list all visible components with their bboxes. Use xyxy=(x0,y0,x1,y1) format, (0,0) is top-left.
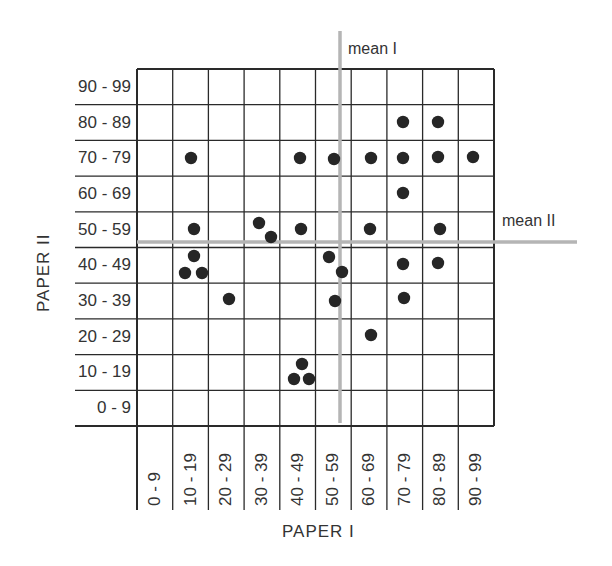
data-point xyxy=(294,152,306,164)
data-point xyxy=(179,267,191,279)
x-tick-label: 60 - 69 xyxy=(359,453,379,506)
data-point xyxy=(296,358,308,370)
x-tick-label: 10 - 19 xyxy=(181,453,201,506)
data-point xyxy=(397,152,409,164)
y-tick-label: 60 - 69 xyxy=(31,184,131,204)
data-point xyxy=(398,292,410,304)
y-axis-title: PAPER II xyxy=(34,233,54,312)
y-tick-label: 20 - 29 xyxy=(31,327,131,347)
x-tick-label: 0 - 9 xyxy=(145,472,165,506)
data-point xyxy=(432,116,444,128)
data-point xyxy=(397,187,409,199)
data-point xyxy=(253,217,265,229)
data-point xyxy=(365,329,377,341)
x-tick-label: 70 - 79 xyxy=(395,453,415,506)
data-point xyxy=(288,373,300,385)
x-tick-label: 80 - 89 xyxy=(430,453,450,506)
data-point xyxy=(434,223,446,235)
data-point xyxy=(323,251,335,263)
data-point xyxy=(185,152,197,164)
data-point xyxy=(188,223,200,235)
data-point xyxy=(397,116,409,128)
x-tick-label: 40 - 49 xyxy=(288,453,308,506)
data-point xyxy=(432,257,444,269)
data-point xyxy=(467,151,479,163)
y-tick-label: 70 - 79 xyxy=(31,148,131,168)
data-point xyxy=(329,295,341,307)
data-point xyxy=(336,266,348,278)
y-tick-label: 10 - 19 xyxy=(31,362,131,382)
y-tick-label: 90 - 99 xyxy=(31,77,131,97)
data-point xyxy=(295,223,307,235)
data-point xyxy=(188,250,200,262)
data-point xyxy=(196,267,208,279)
data-point xyxy=(265,231,277,243)
x-axis-title: PAPER I xyxy=(282,522,355,542)
y-tick-label: 80 - 89 xyxy=(31,113,131,133)
data-points xyxy=(179,116,479,385)
x-tick-label: 30 - 39 xyxy=(252,453,272,506)
data-point xyxy=(364,223,376,235)
data-point xyxy=(365,152,377,164)
data-point xyxy=(303,373,315,385)
mean-I-label: mean I xyxy=(348,40,397,58)
mean-II-label: mean II xyxy=(502,212,555,230)
grid-lines xyxy=(75,69,494,510)
x-tick-label: 20 - 29 xyxy=(216,453,236,506)
data-point xyxy=(397,258,409,270)
data-point xyxy=(432,151,444,163)
data-point xyxy=(328,153,340,165)
y-tick-label: 0 - 9 xyxy=(31,398,131,418)
x-tick-label: 50 - 59 xyxy=(323,453,343,506)
data-point xyxy=(223,293,235,305)
x-tick-label: 90 - 99 xyxy=(466,453,486,506)
